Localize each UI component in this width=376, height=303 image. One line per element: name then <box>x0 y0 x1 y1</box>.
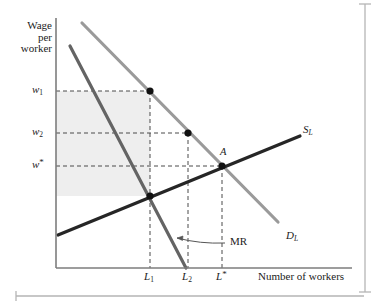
labor-demand-curve-label: DL <box>286 230 298 242</box>
y-tick-label-w1: w1 <box>32 84 43 96</box>
diagram-canvas <box>0 0 376 303</box>
point-w1-L1 <box>146 87 153 94</box>
mr-callout-arrow <box>177 236 225 243</box>
marginal-revenue-curve-label: MR <box>230 236 247 248</box>
labor-supply-curve-label: SL <box>303 124 313 136</box>
y-axis-title-line-3: worker <box>8 43 52 55</box>
y-axis-title: Wage per worker <box>8 20 52 55</box>
x-tick-label-L1: L1 <box>144 271 154 283</box>
point-mr-supply-intersection <box>146 192 153 199</box>
x-tick-label-Lstar: L* <box>216 271 227 283</box>
y-axis-title-line-1: Wage <box>8 20 52 32</box>
point-A-label: A <box>220 146 226 157</box>
y-tick-label-wstar: w* <box>32 159 44 171</box>
economics-diagram-figure: Wage per worker w1 w2 w* L1 L2 L* Number… <box>0 0 376 303</box>
x-axis-title: Number of workers <box>258 271 344 283</box>
point-w2-L2 <box>184 129 191 136</box>
y-tick-label-w2: w2 <box>32 126 43 138</box>
point-A <box>218 162 225 169</box>
x-tick-label-L2: L2 <box>182 271 192 283</box>
